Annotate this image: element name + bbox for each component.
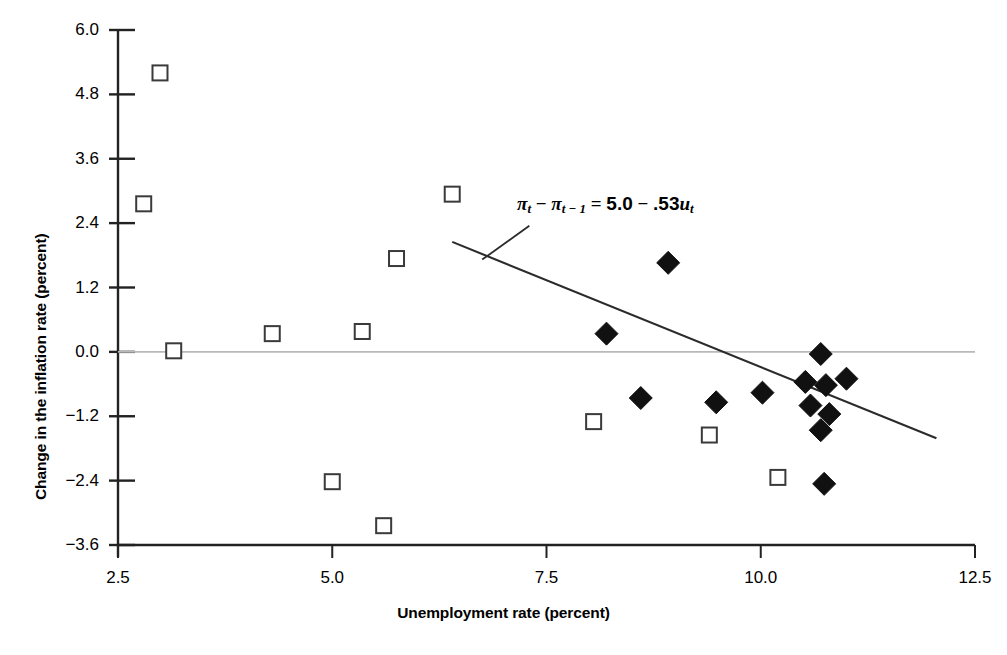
data-point-open-square-8[interactable] [445, 187, 460, 202]
y-tick-label-8: −3.6 [0, 535, 99, 555]
eq-equals: = [586, 193, 606, 214]
regression-fit-line [452, 242, 936, 438]
x-tick-label-0: 2.5 [106, 568, 130, 588]
data-point-open-square-9[interactable] [586, 414, 601, 429]
y-tick-label-3: 2.4 [0, 213, 99, 233]
eq-coefficient: .53 [653, 193, 679, 214]
y-tick-label-1: 4.8 [0, 84, 99, 104]
data-point-filled-diamond-7[interactable] [809, 343, 832, 366]
x-tick-label-2: 7.5 [535, 568, 559, 588]
data-point-open-square-0[interactable] [152, 65, 167, 80]
x-tick-label-3: 10.0 [744, 568, 777, 588]
data-point-filled-diamond-9[interactable] [813, 472, 836, 495]
eq-pi-t: πt [517, 193, 531, 214]
eq-minus-2: − [633, 193, 653, 214]
eq-minus-1: − [531, 193, 551, 214]
data-point-open-square-2[interactable] [166, 343, 181, 358]
data-point-open-square-4[interactable] [325, 474, 340, 489]
data-point-filled-diamond-0[interactable] [595, 322, 618, 345]
y-tick-label-4: 1.2 [0, 278, 99, 298]
x-tick-label-1: 5.0 [320, 568, 344, 588]
data-point-open-square-6[interactable] [376, 518, 391, 533]
scatter-plot-figure: Change in the inflation rate (percent) U… [0, 0, 1007, 655]
data-point-filled-diamond-10[interactable] [814, 374, 837, 397]
plot-canvas [0, 0, 1007, 655]
data-point-filled-diamond-2[interactable] [657, 251, 680, 274]
annotation-leader-line [482, 226, 529, 260]
data-point-filled-diamond-12[interactable] [835, 367, 858, 390]
regression-equation-annotation: πt − πt − 1 = 5.0 − .53ut [517, 193, 694, 217]
data-point-open-square-10[interactable] [702, 428, 717, 443]
data-point-open-square-5[interactable] [355, 324, 370, 339]
eq-intercept: 5.0 [606, 193, 632, 214]
data-point-open-square-3[interactable] [265, 326, 280, 341]
eq-u-t: ut [680, 193, 694, 214]
eq-pi-t-minus-1: πt − 1 [551, 193, 586, 214]
data-point-open-square-1[interactable] [136, 196, 151, 211]
x-tick-label-4: 12.5 [958, 568, 991, 588]
y-tick-label-7: −2.4 [0, 471, 99, 491]
data-point-filled-diamond-1[interactable] [629, 387, 652, 410]
y-tick-label-2: 3.6 [0, 149, 99, 169]
data-point-open-square-7[interactable] [389, 251, 404, 266]
y-tick-label-5: 0.0 [0, 342, 99, 362]
data-point-open-square-11[interactable] [770, 470, 785, 485]
y-tick-label-0: 6.0 [0, 20, 99, 40]
data-point-filled-diamond-3[interactable] [705, 391, 728, 414]
y-tick-label-6: −1.2 [0, 406, 99, 426]
data-point-filled-diamond-5[interactable] [794, 370, 817, 393]
data-point-filled-diamond-4[interactable] [751, 381, 774, 404]
